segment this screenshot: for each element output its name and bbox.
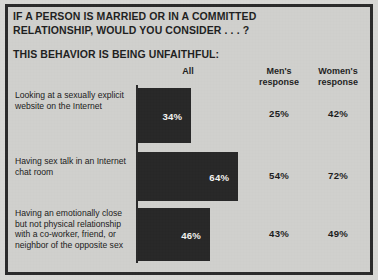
column-header-men-line1: Men's: [248, 66, 310, 77]
value-women: 42%: [305, 108, 371, 119]
chart-row: Looking at a sexually explicit website o…: [0, 84, 378, 144]
value-men: 54%: [248, 170, 310, 181]
value-men: 43%: [248, 228, 310, 239]
bar-all: 64%: [138, 152, 238, 201]
value-women: 72%: [305, 170, 371, 181]
bar-value-label: 46%: [181, 229, 201, 240]
poster-content: IF A PERSON IS MARRIED OR IN A COMMITTED…: [0, 0, 378, 280]
bar-fill: 46%: [138, 208, 210, 261]
row-label: Looking at a sexually explicit website o…: [15, 90, 133, 111]
subtitle: THIS BEHAVIOR IS BEING UNFAITHFUL:: [13, 48, 313, 62]
chart-row: Having sex talk in an Internet chat room…: [0, 148, 378, 203]
value-men: 25%: [248, 108, 310, 119]
bar-all: 34%: [138, 88, 191, 143]
column-header-all: All: [160, 66, 216, 77]
title-line-2: RELATIONSHIP, WOULD YOU CONSIDER . . . ?: [13, 24, 313, 38]
bar-fill: 64%: [138, 152, 238, 201]
bar-value-label: 34%: [162, 110, 182, 121]
bar-fill: 34%: [138, 88, 191, 143]
chart-row: Having an emotionally close but not phys…: [0, 204, 378, 262]
row-label: Having sex talk in an Internet chat room: [15, 156, 133, 177]
row-label: Having an emotionally close but not phys…: [15, 208, 133, 250]
bar-value-label: 64%: [209, 171, 229, 182]
title-line-1: IF A PERSON IS MARRIED OR IN A COMMITTED: [13, 10, 313, 24]
value-women: 49%: [305, 228, 371, 239]
title-block: IF A PERSON IS MARRIED OR IN A COMMITTED…: [13, 10, 313, 62]
infographic-poster: IF A PERSON IS MARRIED OR IN A COMMITTED…: [0, 0, 378, 280]
bar-all: 46%: [138, 208, 210, 261]
column-header-women-line1: Women's: [305, 66, 371, 77]
